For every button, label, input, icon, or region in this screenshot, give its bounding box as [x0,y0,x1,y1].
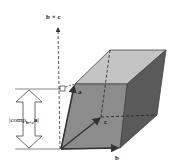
label-c: c [104,118,107,126]
parallelepiped-diagram: b × c a c b |compb×ca| [0,0,175,167]
label-b: b [115,154,119,162]
label-cross-product: b × c [46,13,61,21]
right-angle-icon [60,86,65,91]
vector-b [61,148,118,149]
label-comp: |compb×ca| [9,116,39,125]
label-a: a [78,88,82,96]
